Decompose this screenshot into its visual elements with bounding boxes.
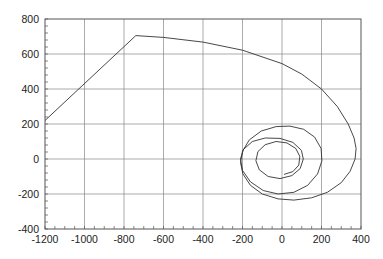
x-tick-label: -600 [153,233,174,245]
data-line [45,36,356,201]
x-tick-label: 400 [352,233,370,245]
y-axis-labels: -400-2000200400600800 [18,13,39,235]
x-tick-label: -800 [113,233,134,245]
x-tick-label: 0 [279,233,285,245]
y-tick-label: 600 [21,48,39,60]
line-chart: -400-2000200400600800 -1200-1000-800-600… [0,0,383,259]
x-tick-label: -1200 [32,233,59,245]
x-tick-label: 200 [313,233,331,245]
y-tick-label: 400 [21,83,39,95]
x-tick-label: -1000 [71,233,98,245]
y-tick-label: 200 [21,118,39,130]
y-tick-label: 800 [21,13,39,25]
x-axis-labels: -1200-1000-800-600-400-2000200400 [32,233,370,245]
x-tick-label: -200 [232,233,253,245]
y-tick-label: 0 [33,153,39,165]
x-tick-label: -400 [192,233,213,245]
y-tick-label: -200 [18,188,39,200]
